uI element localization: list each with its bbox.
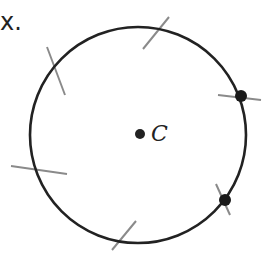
arc-mark-top bbox=[143, 17, 169, 49]
right-lower-point bbox=[219, 194, 231, 206]
arc-mark-lower-left bbox=[11, 166, 67, 174]
circle-diagram bbox=[0, 0, 275, 254]
center-point bbox=[135, 129, 145, 139]
center-label: C bbox=[151, 121, 168, 146]
right-upper-point bbox=[235, 90, 247, 102]
arc-mark-bottom bbox=[112, 221, 136, 250]
